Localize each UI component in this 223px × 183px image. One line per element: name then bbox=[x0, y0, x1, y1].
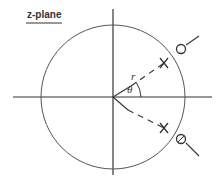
radius-line-lower-solid bbox=[113, 97, 128, 110]
z-plane-diagram: z-plane r θ bbox=[0, 0, 223, 183]
pole-x-icon-lower bbox=[160, 123, 168, 133]
extension-line-upper bbox=[186, 36, 199, 45]
radius-line-lower-dashed bbox=[128, 110, 164, 128]
diagram-title: z-plane bbox=[27, 9, 62, 20]
extension-line-lower bbox=[186, 143, 199, 156]
radius-label: r bbox=[131, 70, 136, 82]
angle-arc bbox=[136, 82, 141, 97]
angle-label: θ bbox=[127, 83, 133, 95]
zero-circle-icon-upper bbox=[177, 45, 186, 54]
pole-x-icon-upper bbox=[160, 58, 168, 68]
